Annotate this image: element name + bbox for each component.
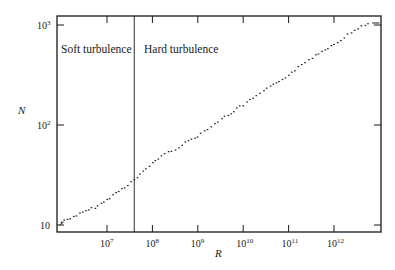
data-point xyxy=(282,79,284,80)
data-point xyxy=(85,210,87,211)
data-point xyxy=(331,45,333,46)
data-point xyxy=(259,93,261,94)
data-point xyxy=(145,168,147,169)
data-point xyxy=(278,81,280,82)
data-point xyxy=(103,202,105,203)
data-point xyxy=(127,185,129,186)
data-point xyxy=(164,153,166,154)
data-point xyxy=(273,84,275,85)
data-point xyxy=(204,130,206,131)
data-point xyxy=(321,51,323,52)
data-point xyxy=(134,179,136,180)
data-point xyxy=(158,158,160,159)
data-point xyxy=(97,205,99,206)
data-point xyxy=(367,23,369,24)
data-point xyxy=(175,149,177,150)
data-point xyxy=(161,155,163,156)
data-point xyxy=(249,99,251,100)
data-point xyxy=(101,203,103,204)
data-point xyxy=(285,77,287,78)
data-point xyxy=(155,160,157,161)
data-point xyxy=(288,75,290,76)
data-point xyxy=(224,116,226,117)
hard-turbulence-label: Hard turbulence xyxy=(144,43,218,55)
data-point xyxy=(252,98,254,99)
data-point xyxy=(318,53,320,54)
data-point xyxy=(115,192,117,193)
data-point xyxy=(149,166,151,167)
data-point xyxy=(266,88,268,89)
data-point xyxy=(178,147,180,148)
data-point xyxy=(82,211,84,212)
data-point xyxy=(185,141,187,142)
y-tick-label: 10 xyxy=(40,220,50,231)
data-point xyxy=(73,216,75,217)
data-point xyxy=(327,48,329,49)
data-point xyxy=(79,212,81,213)
data-point xyxy=(109,198,111,199)
data-point xyxy=(63,220,65,221)
data-point xyxy=(312,58,314,59)
data-point xyxy=(112,194,114,195)
data-point xyxy=(211,126,213,127)
data-point xyxy=(239,105,241,106)
data-point xyxy=(365,25,367,26)
y-tick-label: 102 xyxy=(37,119,51,131)
data-point xyxy=(246,101,248,102)
data-point xyxy=(197,136,199,137)
data-point xyxy=(67,219,69,220)
data-point xyxy=(194,138,196,139)
data-point xyxy=(191,138,193,139)
x-tick-label: 108 xyxy=(145,237,159,249)
data-point xyxy=(76,215,78,216)
x-tick-label: 109 xyxy=(191,237,205,249)
data-point xyxy=(263,90,265,91)
data-point xyxy=(298,66,300,67)
data-point xyxy=(354,30,356,31)
data-point xyxy=(236,107,238,108)
data-point xyxy=(291,72,293,73)
data-point xyxy=(242,105,244,106)
data-point xyxy=(315,54,317,55)
data-point xyxy=(181,145,183,146)
x-tick-label: 107 xyxy=(100,237,114,249)
x-tick-label: 1010 xyxy=(236,237,254,249)
data-point xyxy=(304,62,306,63)
data-point xyxy=(88,209,90,210)
data-point xyxy=(188,140,190,141)
data-point xyxy=(221,118,223,119)
data-point xyxy=(95,208,97,209)
data-point xyxy=(168,151,170,152)
data-point xyxy=(351,32,353,33)
data-point xyxy=(121,188,123,189)
data-point xyxy=(347,33,349,34)
data-point xyxy=(325,49,327,50)
data-point xyxy=(124,187,126,188)
data-point xyxy=(137,177,139,178)
data-point xyxy=(270,85,272,86)
data-point xyxy=(344,37,346,38)
data-point xyxy=(69,218,71,219)
data-point xyxy=(139,173,141,174)
data-point xyxy=(91,207,93,208)
data-point xyxy=(130,181,132,182)
soft-turbulence-label: Soft turbulence xyxy=(61,43,132,55)
data-point xyxy=(152,162,154,163)
data-point xyxy=(276,82,278,83)
data-point xyxy=(294,70,296,71)
y-tick-label: 103 xyxy=(37,19,51,31)
data-point xyxy=(106,199,108,200)
data-point xyxy=(142,170,144,171)
data-point xyxy=(233,111,235,112)
x-axis-ticks: 107108109101010111012 xyxy=(100,16,345,249)
chart: 107108109101010111012 10102103 Soft turb… xyxy=(0,0,395,270)
data-point xyxy=(217,122,219,123)
data-point xyxy=(207,129,209,130)
x-tick-label: 1011 xyxy=(282,237,299,249)
data-point xyxy=(214,123,216,124)
data-point xyxy=(118,191,120,192)
data-point xyxy=(255,95,257,96)
data-point xyxy=(340,40,342,41)
data-point xyxy=(200,133,202,134)
data-point xyxy=(357,28,359,29)
